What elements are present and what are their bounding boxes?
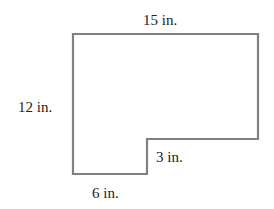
bottom-dimension-label: 6 in. [92,186,119,201]
top-dimension-label: 15 in. [143,13,177,28]
notch-dimension-label: 3 in. [156,150,183,165]
left-dimension-label: 12 in. [18,100,52,115]
